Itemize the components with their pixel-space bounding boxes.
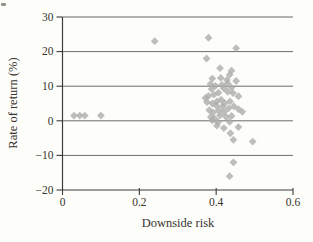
y-tick-label: −10 — [36, 149, 54, 161]
data-point-marker — [217, 74, 225, 82]
data-point-marker — [226, 129, 234, 137]
y-tick-label: 20 — [42, 45, 54, 57]
scatter-figure: −20−10010203000.20.40.6 Rate of return (… — [0, 0, 313, 242]
data-point-marker — [232, 77, 240, 85]
data-point-marker — [228, 112, 236, 120]
data-point-marker — [230, 136, 238, 144]
scatter-plot-canvas: −20−10010203000.20.40.6 — [0, 0, 313, 242]
data-point-marker — [232, 44, 240, 52]
data-point-marker — [81, 112, 89, 120]
x-tick-label: 0 — [60, 196, 66, 208]
data-point-marker — [226, 172, 234, 180]
x-tick-label: 0.2 — [132, 196, 147, 208]
y-tick-label: −20 — [36, 184, 54, 196]
y-tick-label: 10 — [42, 80, 54, 92]
data-point-marker — [220, 124, 228, 132]
x-axis-title: Downside risk — [62, 216, 294, 231]
y-axis-title: Rate of return (%) — [6, 57, 21, 148]
y-tick-label: 30 — [42, 11, 54, 23]
data-point-marker — [235, 123, 243, 131]
data-point-marker — [249, 138, 257, 146]
y-tick-label: 0 — [48, 115, 54, 127]
x-tick-label: 0.6 — [286, 196, 301, 208]
data-point-marker — [205, 34, 213, 42]
x-tick-label: 0.4 — [209, 196, 224, 208]
data-point-marker — [151, 37, 159, 45]
data-point-marker — [203, 55, 211, 63]
data-point-marker — [216, 64, 224, 72]
data-point-marker — [97, 112, 105, 120]
data-point-marker — [230, 158, 238, 166]
